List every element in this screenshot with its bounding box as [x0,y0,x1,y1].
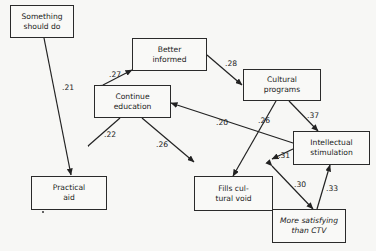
node-more-satisfying: More satisfying than CTV [272,209,346,243]
edge-label-continue-better: .27 [109,70,121,79]
edge-label-fills-more: .30 [294,180,306,189]
edge-label-cultural-fills: .26 [258,116,270,125]
node-better-informed: Better informed [132,38,207,71]
edge-cultural-fills [233,101,276,176]
edge-label-continue-practical: .22 [104,130,116,139]
node-practical-aid: Practical aid [31,176,107,210]
edge-intellectual-continue [171,103,293,143]
node-something-should-do: Something should do [10,5,74,38]
edge-label-more-intellectual: .33 [326,184,338,193]
node-intellectual-stimulation: Intellectual stimulation [293,131,370,165]
edge-continue-practical-b [88,118,120,175]
edge-label-intellectual-continue: .20 [216,118,228,127]
edge-something-practical [44,38,71,175]
footnote-marker [42,211,44,213]
node-continue-education: Continue education [94,85,171,118]
node-cultural-programs: Cultural programs [243,69,321,101]
node-fills-cultural-void: Fills cul- tural void [194,176,273,211]
edge-label-better-cultural: .28 [225,59,237,68]
edge-label-continue-fills: .26 [156,140,168,149]
edge-label-something-practical: .21 [62,83,74,92]
edge-label-intellectual-fills: .31 [278,151,290,160]
edge-label-cultural-intellectual: .37 [307,111,319,120]
edge-fills-more [272,166,313,209]
